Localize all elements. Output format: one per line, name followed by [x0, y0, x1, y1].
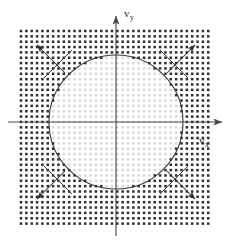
lattice-dot-inside [132, 169, 135, 172]
lattice-dot-inside [95, 131, 98, 134]
lattice-dot-inside [73, 115, 76, 118]
lattice-dot-outside [100, 40, 103, 43]
lattice-dot-inside [148, 89, 151, 92]
lattice-dot-inside [143, 78, 146, 81]
lattice-dot-outside [191, 201, 194, 204]
lattice-dot-inside [100, 67, 103, 70]
lattice-dot-outside [121, 46, 124, 49]
lattice-dot-outside [47, 158, 50, 161]
lattice-dot-inside [89, 164, 92, 167]
lattice-dot-inside [111, 99, 114, 102]
lattice-dot-outside [25, 57, 28, 60]
lattice-dot-inside [154, 147, 157, 150]
lattice-dot-inside [137, 89, 140, 92]
lattice-dot-inside [132, 142, 135, 145]
lattice-dot-outside [202, 174, 205, 177]
lattice-dot-inside [105, 99, 108, 102]
lattice-dot-outside [41, 137, 44, 140]
lattice-dot-outside [25, 180, 28, 183]
lattice-dot-outside [89, 35, 92, 38]
lattice-dot-inside [95, 174, 98, 177]
lattice-dot-outside [30, 153, 33, 156]
lattice-dot-outside [47, 174, 50, 177]
lattice-dot-inside [127, 169, 130, 172]
lattice-dot-inside [105, 110, 108, 113]
lattice-dot-outside [41, 147, 44, 150]
lattice-dot-inside [89, 158, 92, 161]
lattice-dot-outside [191, 30, 194, 33]
lattice-dot-outside [47, 212, 50, 215]
lattice-dot-inside [57, 147, 60, 150]
lattice-dot-outside [154, 222, 157, 225]
lattice-dot-outside [196, 180, 199, 183]
lattice-dot-outside [132, 217, 135, 220]
lattice-dot-inside [89, 73, 92, 76]
lattice-dot-inside [137, 142, 140, 145]
lattice-dot-inside [137, 99, 140, 102]
lattice-dot-inside [111, 137, 114, 140]
lattice-dot-inside [137, 174, 140, 177]
lattice-dot-outside [191, 126, 194, 129]
lattice-dot-outside [186, 174, 189, 177]
lattice-dot-outside [41, 62, 44, 65]
lattice-dot-inside [111, 94, 114, 97]
lattice-dot-inside [63, 89, 66, 92]
lattice-dot-outside [57, 30, 60, 33]
lattice-dot-inside [105, 131, 108, 134]
lattice-dot-outside [105, 190, 108, 193]
lattice-dot-outside [25, 222, 28, 225]
lattice-dot-outside [180, 164, 183, 167]
lattice-dot-outside [95, 35, 98, 38]
lattice-dot-inside [121, 137, 124, 140]
lattice-dot-outside [207, 115, 210, 118]
lattice-dot-outside [36, 158, 39, 161]
lattice-dot-inside [63, 126, 66, 129]
lattice-dot-inside [121, 78, 124, 81]
lattice-dot-outside [36, 169, 39, 172]
lattice-dot-outside [164, 51, 167, 54]
lattice-dot-inside [175, 131, 178, 134]
lattice-dot-outside [121, 212, 124, 215]
lattice-dot-outside [47, 137, 50, 140]
lattice-dot-outside [164, 62, 167, 65]
lattice-dot-inside [79, 83, 82, 86]
lattice-dot-inside [121, 67, 124, 70]
lattice-dot-outside [196, 217, 199, 220]
lattice-dot-inside [63, 158, 66, 161]
lattice-dot-outside [36, 78, 39, 81]
lattice-dot-outside [30, 99, 33, 102]
lattice-dot-outside [186, 222, 189, 225]
lattice-dot-outside [127, 190, 130, 193]
lattice-dot-inside [100, 89, 103, 92]
lattice-dot-inside [137, 164, 140, 167]
lattice-dot-outside [20, 131, 23, 134]
lattice-dot-outside [191, 89, 194, 92]
lattice-dot-outside [207, 110, 210, 113]
lattice-dot-inside [154, 83, 157, 86]
lattice-dot-outside [143, 196, 146, 199]
lattice-dot-outside [207, 35, 210, 38]
lattice-dot-outside [73, 30, 76, 33]
lattice-dot-inside [52, 126, 55, 129]
lattice-dot-outside [207, 201, 210, 204]
lattice-dot-inside [57, 142, 60, 145]
lattice-dot-outside [196, 110, 199, 113]
lattice-dot-inside [68, 164, 71, 167]
lattice-dot-outside [154, 201, 157, 204]
lattice-dot-outside [127, 40, 130, 43]
lattice-dot-outside [180, 30, 183, 33]
lattice-dot-inside [148, 83, 151, 86]
lattice-dot-inside [121, 126, 124, 129]
lattice-dot-inside [79, 131, 82, 134]
lattice-dot-inside [137, 137, 140, 140]
lattice-dot-outside [186, 67, 189, 70]
lattice-dot-outside [68, 62, 71, 65]
lattice-dot-inside [68, 110, 71, 113]
lattice-dot-outside [207, 78, 210, 81]
lattice-dot-outside [68, 201, 71, 204]
lattice-dot-inside [143, 147, 146, 150]
lattice-dot-inside [159, 94, 162, 97]
lattice-dot-inside [95, 73, 98, 76]
lattice-dot-outside [20, 115, 23, 118]
lattice-dot-inside [89, 99, 92, 102]
